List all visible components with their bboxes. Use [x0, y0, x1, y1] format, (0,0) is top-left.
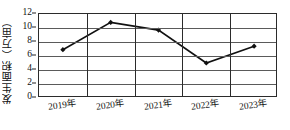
vertical-gridline: [87, 14, 88, 96]
y-axis-tick-labels: 024681012: [16, 0, 36, 130]
y-axis-tick-mark: [32, 27, 36, 28]
y-axis-title: 发生面积（万亩）: [1, 6, 17, 114]
x-axis-tick-label: 2023年: [239, 99, 269, 112]
y-axis-tick-mark: [32, 55, 36, 56]
line-chart: 发生面积（万亩） 024681012 2019年2020年2021年2022年2…: [0, 0, 290, 130]
vertical-gridline: [230, 14, 231, 96]
horizontal-gridline: [39, 56, 276, 57]
x-axis-tick-labels: 2019年2020年2021年2022年2023年: [38, 99, 277, 127]
y-axis-tick-mark: [32, 41, 36, 42]
horizontal-gridline: [39, 28, 276, 29]
x-axis-tick-label: 2019年: [47, 99, 77, 112]
data-point-marker: [252, 44, 257, 49]
x-axis-tick-label: 2022年: [191, 99, 221, 112]
y-axis-tick-mark: [32, 97, 36, 98]
x-axis-tick-label: 2021年: [143, 99, 173, 112]
y-axis-tick-mark: [32, 83, 36, 84]
vertical-gridline: [135, 14, 136, 96]
horizontal-gridline: [39, 84, 276, 85]
plot-area: [38, 13, 277, 97]
y-axis-tick-mark: [32, 13, 36, 14]
horizontal-gridline: [39, 70, 276, 71]
y-axis-tick-label: 12: [23, 8, 33, 18]
horizontal-gridline: [39, 42, 276, 43]
y-axis-tick-label: 10: [23, 22, 33, 32]
x-axis-tick-label: 2020年: [95, 99, 125, 112]
y-axis-tick-mark: [32, 69, 36, 70]
vertical-gridline: [182, 14, 183, 96]
